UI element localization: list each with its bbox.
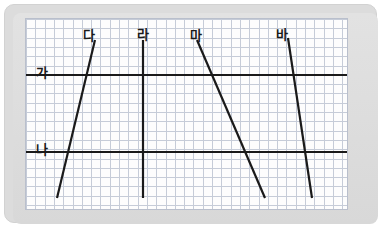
label-na: 나 [36, 143, 48, 156]
grid-lines [26, 19, 347, 209]
label-ga: 가 [36, 66, 48, 79]
grid-paper [25, 18, 348, 210]
label-da: 다 [83, 29, 95, 42]
label-ba: 바 [276, 28, 288, 41]
label-ma: 마 [190, 29, 202, 42]
label-ra: 라 [137, 28, 149, 41]
screenshot-root: 가나다라마바 [0, 0, 383, 229]
